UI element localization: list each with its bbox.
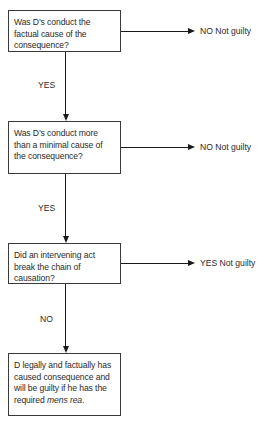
- branch-label-no: NO: [40, 314, 53, 324]
- outcome-not-guilty: NO Not guilty: [200, 26, 251, 36]
- branch-label-yes: YES: [38, 203, 55, 213]
- arrow-right-icon: [188, 28, 195, 34]
- conclusion-period: .: [82, 395, 84, 405]
- no-arrow-line: [65, 284, 66, 346]
- arrow-down-icon: [63, 236, 69, 243]
- yes-arrow-line: [121, 263, 189, 264]
- mens-rea-text: mens rea: [47, 395, 82, 405]
- question-box-factual-cause: Was D’s conduct the factual cause of the…: [8, 10, 121, 52]
- conclusion-box-guilty: D legally and factually has caused conse…: [8, 353, 121, 416]
- no-arrow-line: [121, 31, 189, 32]
- question-text: Was D’s conduct more than a minimal caus…: [14, 128, 102, 161]
- no-arrow-line: [121, 147, 189, 148]
- arrow-right-icon: [188, 144, 195, 150]
- arrow-down-icon: [63, 346, 69, 353]
- outcome-not-guilty: YES Not guilty: [200, 258, 255, 268]
- yes-arrow-line: [65, 52, 66, 114]
- yes-arrow-line: [65, 174, 66, 236]
- question-box-intervening-act: Did an intervening act break the chain o…: [8, 243, 121, 284]
- branch-label-yes: YES: [38, 80, 55, 90]
- outcome-not-guilty: NO Not guilty: [200, 142, 251, 152]
- question-text: Was D’s conduct the factual cause of the…: [14, 17, 90, 50]
- arrow-down-icon: [63, 114, 69, 121]
- question-text: Did an intervening act break the chain o…: [14, 250, 95, 283]
- arrow-right-icon: [188, 260, 195, 266]
- question-box-minimal-cause: Was D’s conduct more than a minimal caus…: [8, 121, 121, 174]
